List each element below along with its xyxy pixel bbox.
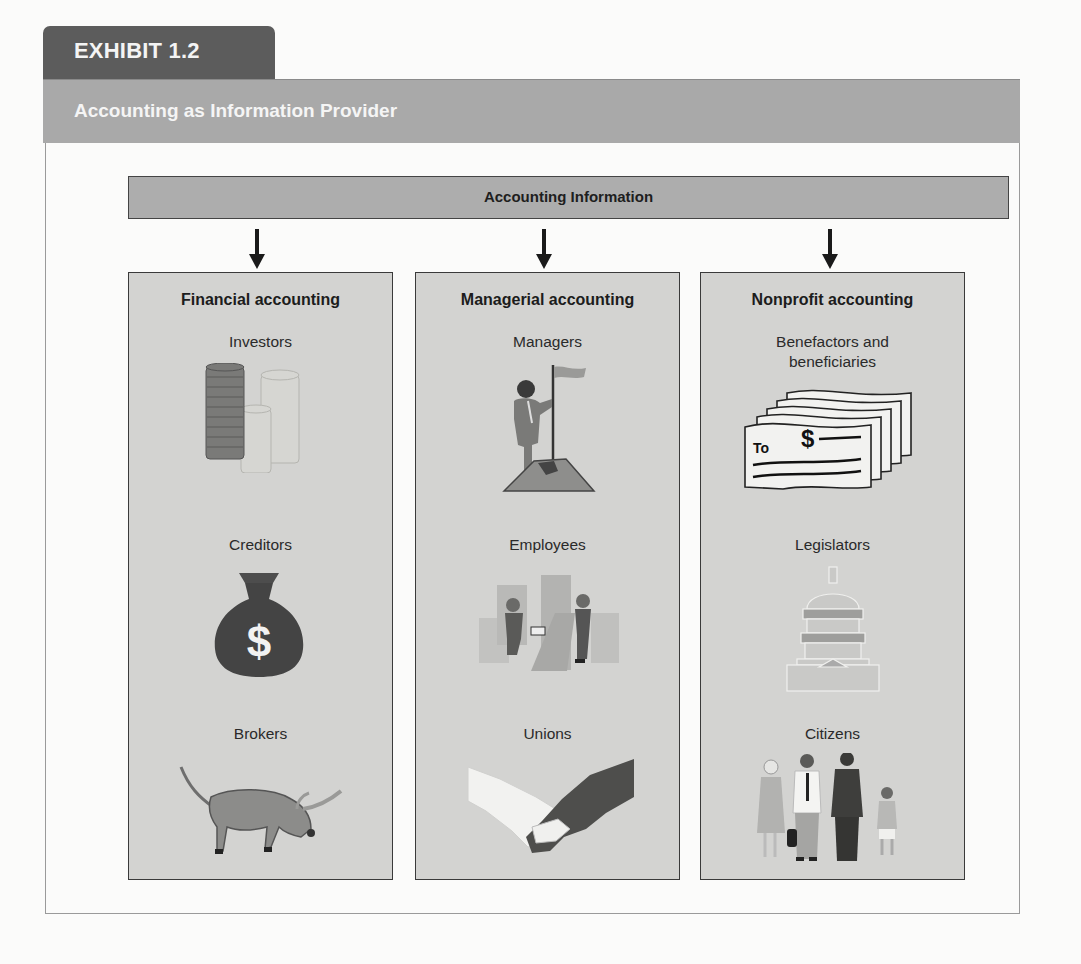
group-label-citizens: Citizens	[701, 724, 964, 744]
bull-icon	[171, 757, 351, 862]
column-heading: Financial accounting	[129, 291, 392, 309]
column-heading: Nonprofit accounting	[701, 291, 964, 309]
svg-text:$: $	[247, 617, 271, 666]
checks-icon: To $	[743, 385, 919, 495]
money-bag-icon: $	[209, 569, 309, 679]
handshake-icon	[466, 757, 636, 857]
group-label-creditors: Creditors	[129, 535, 392, 555]
citizens-icon	[751, 753, 921, 868]
accounting-information-box: Accounting Information	[128, 176, 1009, 219]
group-label-brokers: Brokers	[129, 724, 392, 744]
manager-flag-icon	[498, 363, 598, 493]
arrow-down-icon	[249, 229, 265, 269]
column-financial-accounting: Financial accounting Investors Creditors…	[128, 272, 393, 880]
svg-text:$: $	[801, 425, 815, 452]
column-managerial-accounting: Managerial accounting Managers Employees…	[415, 272, 680, 880]
arrow-down-icon	[822, 229, 838, 269]
column-nonprofit-accounting: Nonprofit accounting Benefactors and ben…	[700, 272, 965, 880]
group-label-legislators: Legislators	[701, 535, 964, 555]
group-label-investors: Investors	[129, 332, 392, 352]
group-label-employees: Employees	[416, 535, 679, 555]
group-label-managers: Managers	[416, 332, 679, 352]
group-label-unions: Unions	[416, 724, 679, 744]
coin-stacks-icon	[199, 363, 314, 473]
exhibit-tab: EXHIBIT 1.2	[43, 26, 275, 79]
exhibit-title: Accounting as Information Provider	[43, 79, 1020, 143]
capitol-icon	[783, 563, 883, 693]
group-label-benefactors-beneficiaries: Benefactors and beneficiaries	[701, 332, 964, 372]
svg-text:To: To	[753, 440, 769, 456]
employees-icon	[471, 573, 626, 673]
arrow-down-icon	[536, 229, 552, 269]
column-heading: Managerial accounting	[416, 291, 679, 309]
